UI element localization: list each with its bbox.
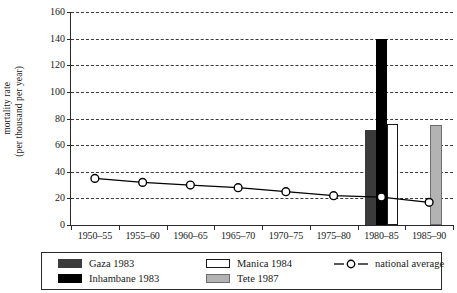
x-tick-label-1970-75: 1970–75: [269, 230, 303, 241]
x-tick-mark-7: [405, 225, 406, 230]
chart-legend: Gaza 1983 Inhambane 1983 Manica 1984 Tet…: [41, 252, 442, 290]
y-axis-title-line-2: (per thousand per year): [14, 66, 24, 157]
x-tick-label-1980-85: 1980–85: [364, 230, 398, 241]
legend-swatch-national-average-icon: [334, 259, 368, 269]
legend-label-gaza: Gaza 1983: [89, 258, 134, 269]
legend-item-gaza: Gaza 1983: [58, 258, 134, 269]
legend-item-manica: Manica 1984: [206, 258, 292, 269]
legend-swatch-gaza-icon: [58, 259, 82, 268]
x-tick-label-1950-55: 1950–55: [78, 230, 112, 241]
legend-swatch-manica-icon: [206, 259, 230, 268]
national-average-line: [71, 12, 453, 225]
y-tick-label-60: 60: [37, 140, 65, 150]
x-tick-label-1965-70: 1965–70: [221, 230, 255, 241]
legend-item-inhambane: Inhambane 1983: [58, 273, 159, 284]
x-tick-mark-8: [453, 225, 454, 230]
x-tick-mark-0: [71, 225, 72, 230]
legend-item-national-average: national average: [334, 258, 444, 269]
y-tick-label-100: 100: [37, 87, 65, 97]
x-tick-mark-3: [214, 225, 215, 230]
y-tick-label-80: 80: [37, 114, 65, 124]
legend-label-manica: Manica 1984: [237, 258, 292, 269]
legend-swatch-tete-icon: [206, 274, 230, 283]
legend-item-tete: Tete 1987: [206, 273, 279, 284]
y-axis-title: mortality rate (per thousand per year): [0, 60, 32, 220]
chart-figure: mortality rate (per thousand per year) 1…: [0, 0, 457, 293]
y-axis-title-line-1: mortality rate: [2, 82, 12, 135]
y-tick-label-0: 0: [37, 220, 65, 230]
y-tick-label-160: 160: [37, 7, 65, 17]
plot-area: 160 140 120 100 80 60 40 20 0 1950–55 19…: [70, 12, 453, 226]
y-tick-label-140: 140: [37, 34, 65, 44]
x-tick-label-1960-65: 1960–65: [173, 230, 207, 241]
x-tick-mark-2: [167, 225, 168, 230]
x-tick-mark-1: [119, 225, 120, 230]
x-tick-label-1975-80: 1975–80: [316, 230, 350, 241]
legend-label-national-average: national average: [375, 258, 444, 269]
x-tick-label-1985-90: 1985–90: [412, 230, 446, 241]
y-tick-label-40: 40: [37, 167, 65, 177]
legend-label-tete: Tete 1987: [237, 273, 279, 284]
x-tick-mark-4: [262, 225, 263, 230]
y-tick-label-120: 120: [37, 60, 65, 70]
y-tick-label-20: 20: [37, 193, 65, 203]
x-tick-mark-6: [358, 225, 359, 230]
x-tick-label-1955-60: 1955–60: [125, 230, 159, 241]
legend-label-inhambane: Inhambane 1983: [89, 273, 159, 284]
x-tick-mark-5: [310, 225, 311, 230]
legend-swatch-inhambane-icon: [58, 274, 82, 283]
